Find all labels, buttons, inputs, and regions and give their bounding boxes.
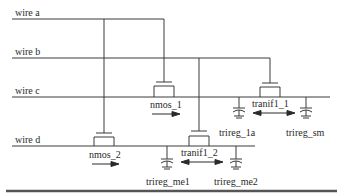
trireg-1a-symbol xyxy=(233,97,245,118)
tranif1-1-symbol xyxy=(260,83,280,97)
wire-c-label: wire c xyxy=(15,86,40,96)
tranif1-1-label: tranif1_1 xyxy=(252,99,289,109)
wire-d-label: wire d xyxy=(15,135,40,145)
trireg-me2-symbol xyxy=(230,146,242,169)
nmos-2-symbol xyxy=(94,133,114,146)
tranif1-2-symbol xyxy=(189,131,209,146)
wire-a-label: wire a xyxy=(15,8,40,18)
trireg-1a-label: trireg_1a xyxy=(219,128,255,138)
nmos-2-label: nmos_2 xyxy=(89,150,121,160)
tranif1-2-bidirectional-arrow-icon xyxy=(181,160,223,165)
trireg-me1-symbol xyxy=(161,146,173,169)
tranif1-2-label: tranif1_2 xyxy=(181,148,218,158)
nmos-1-label: nmos_1 xyxy=(150,100,182,110)
wire-b-label: wire b xyxy=(15,47,40,57)
trireg-me1-label: trireg_me1 xyxy=(146,177,190,187)
nmos-1-symbol xyxy=(154,82,174,97)
nmos-1-arrow-icon xyxy=(152,112,180,117)
trireg-me2-label: trireg_me2 xyxy=(214,177,258,187)
trireg-sm-label: trireg_sm xyxy=(286,128,324,138)
nmos-2-arrow-icon xyxy=(92,162,119,167)
tranif1-1-bidirectional-arrow-icon xyxy=(253,111,295,116)
trireg-sm-symbol xyxy=(300,97,312,118)
